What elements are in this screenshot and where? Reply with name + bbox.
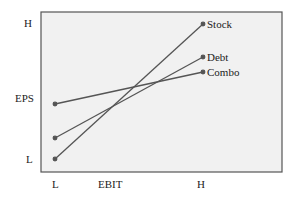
y-tick-low: L <box>26 153 33 165</box>
series-label-combo: Combo <box>207 66 239 78</box>
stock-point-low <box>53 157 57 161</box>
plot-area <box>41 12 282 172</box>
x-tick-low: L <box>52 178 59 190</box>
x-tick-high: H <box>197 178 205 190</box>
x-axis-label: EBIT <box>98 178 122 190</box>
combo-point-low <box>53 102 57 106</box>
stock-point-high <box>201 22 205 26</box>
debt-point-low <box>53 136 57 140</box>
series-label-stock: Stock <box>207 18 232 30</box>
y-tick-high: H <box>24 17 32 29</box>
combo-point-high <box>201 70 205 74</box>
chart-canvas <box>0 0 296 198</box>
debt-point-high <box>201 55 205 59</box>
series-label-debt: Debt <box>207 51 228 63</box>
y-axis-label: EPS <box>15 92 34 104</box>
